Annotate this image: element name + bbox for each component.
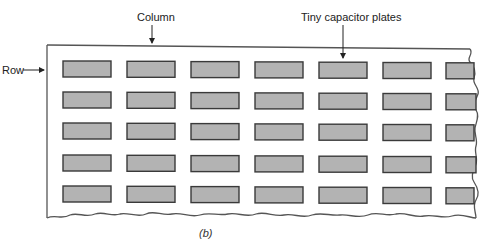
capacitor-plate: [127, 61, 175, 77]
capacitor-plate: [446, 94, 476, 110]
memory-array-diagram: [0, 0, 493, 240]
capacitor-plate: [255, 93, 303, 109]
capacitor-plate: [255, 156, 303, 172]
capacitor-plate: [383, 188, 431, 204]
capacitor-plate: [255, 62, 303, 78]
capacitor-plate: [127, 92, 175, 108]
capacitor-plate: [383, 94, 431, 110]
capacitor-plate: [191, 156, 239, 172]
capacitor-plate: [127, 123, 175, 139]
capacitor-plate: [127, 186, 175, 202]
capacitor-plate: [383, 63, 431, 79]
capacitor-plate: [319, 187, 367, 203]
capacitor-plate: [63, 61, 111, 77]
capacitor-plate: [319, 156, 367, 172]
capacitor-plate: [446, 125, 474, 141]
capacitor-plate: [383, 157, 431, 173]
capacitor-plate: [63, 92, 111, 108]
capacitor-plate: [319, 62, 367, 78]
capacitor-plate: [191, 62, 239, 78]
capacitor-plate: [127, 155, 175, 171]
capacitor-plate: [255, 124, 303, 140]
capacitor-plate: [191, 187, 239, 203]
capacitor-plate: [191, 93, 239, 109]
capacitor-plate: [383, 125, 431, 141]
capacitor-plate: [63, 186, 111, 202]
capacitor-plates: [63, 61, 476, 204]
capacitor-plate: [446, 157, 476, 173]
capacitor-plate: [319, 93, 367, 109]
capacitor-plate: [446, 63, 474, 79]
capacitor-plate: [446, 188, 474, 204]
capacitor-plate: [319, 124, 367, 140]
capacitor-plate: [255, 187, 303, 203]
capacitor-plate: [191, 124, 239, 140]
capacitor-plate: [63, 155, 111, 171]
capacitor-plate: [63, 123, 111, 139]
